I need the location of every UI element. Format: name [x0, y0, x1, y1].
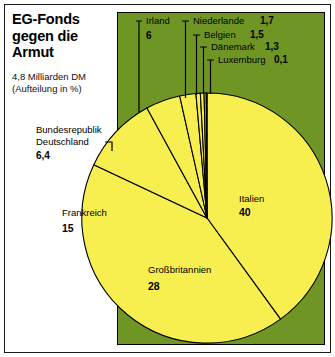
label-italien-value: 40	[239, 206, 251, 218]
label-grossbritannien-value: 28	[148, 280, 160, 292]
label-luxemburg-name: Luxemburg	[218, 54, 266, 65]
leader-line-irland	[136, 21, 142, 112]
label-daenemark-name: Dänemark	[211, 41, 255, 52]
label-belgien-name: Belgien	[204, 29, 236, 40]
label-daenemark-value: 1,3	[265, 41, 279, 52]
label-frankreich-name: Frankreich	[62, 207, 107, 218]
leader-line-luxemburg	[207, 60, 214, 94]
pie-slices	[82, 93, 332, 343]
label-bundesrepublik-name-line-1: Bundesrepublik	[36, 124, 102, 135]
label-irland-name: Irland	[146, 15, 170, 26]
leader-line-daenemark	[200, 47, 207, 94]
label-frankreich-value: 15	[62, 222, 74, 234]
label-bundesrepublik-value: 6,4	[36, 150, 50, 161]
label-luxemburg-value: 0,1	[274, 54, 288, 65]
label-niederlande-name: Niederlande	[193, 15, 244, 26]
leader-line-niederlande	[182, 21, 189, 98]
label-grossbritannien-name: Großbritannien	[148, 264, 211, 275]
label-irland-value: 6	[146, 30, 152, 41]
label-bundesrepublik-name-line-2: Deutschland	[36, 136, 89, 147]
label-belgien-value: 1,5	[250, 29, 264, 40]
label-niederlande-value: 1,7	[260, 15, 274, 26]
leader-line-belgien	[193, 35, 200, 95]
infographic-figure: EG-Fonds gegen die Armut 4,8 Milliarden …	[0, 0, 335, 357]
label-italien-name: Italien	[239, 193, 264, 204]
pie-chart: Irland 6 Niederlande 1,7 Belgien 1,5 Dän…	[0, 0, 335, 357]
